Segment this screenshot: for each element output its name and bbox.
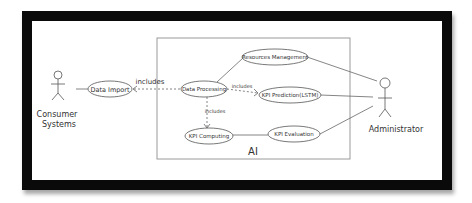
- svg-text:KPI Prediction(LSTM): KPI Prediction(LSTM): [262, 92, 319, 98]
- svg-text:Data Processing: Data Processing: [182, 86, 226, 93]
- svg-text:Data Import: Data Import: [90, 86, 130, 94]
- line-processing-resources: [217, 58, 243, 82]
- actor-consumer-systems[interactable]: [51, 71, 65, 100]
- use-case-data-import[interactable]: Data Import: [88, 81, 132, 97]
- line-admin-resources: [307, 57, 377, 81]
- system-boundary-label: AI: [248, 146, 258, 157]
- include-label-data-import: includes: [135, 78, 164, 86]
- line-admin-kpi-evaluation: [320, 106, 373, 134]
- include-label-kpi-prediction: includes: [232, 83, 253, 89]
- svg-text:Resources Management: Resources Management: [242, 54, 309, 61]
- actor-head-icon: [380, 78, 390, 88]
- svg-text:KPI Computing: KPI Computing: [189, 133, 230, 140]
- actor-consumer-label-line2: Systems: [42, 120, 76, 129]
- actor-head-icon: [54, 71, 62, 79]
- actor-consumer-label-line1: Consumer: [37, 110, 79, 119]
- actor-administrator[interactable]: [378, 78, 392, 117]
- svg-text:KPI Evaluation: KPI Evaluation: [274, 131, 314, 137]
- use-case-resources-management[interactable]: Resources Management: [242, 49, 309, 65]
- use-case-diagram: AI includes includes includes Data Impor…: [0, 0, 472, 203]
- use-case-kpi-computing[interactable]: KPI Computing: [185, 128, 233, 144]
- use-case-kpi-evaluation[interactable]: KPI Evaluation: [268, 126, 320, 142]
- use-case-kpi-prediction[interactable]: KPI Prediction(LSTM): [259, 87, 321, 103]
- include-label-kpi-computing: includes: [205, 108, 226, 114]
- line-admin-kpi-prediction: [320, 95, 373, 97]
- actor-administrator-label: Administrator: [369, 125, 424, 134]
- use-case-data-processing[interactable]: Data Processing: [181, 81, 227, 97]
- line-include-kpi-prediction: [227, 89, 258, 93]
